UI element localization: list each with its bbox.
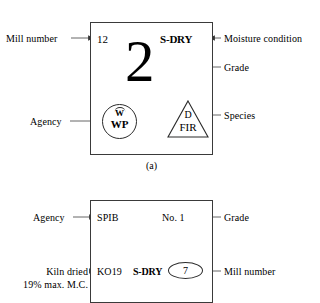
callout-moisture-condition-a: Moisture condition xyxy=(224,33,302,45)
stamp-grade-b: No. 1 xyxy=(162,212,185,224)
callout-agency-b: Agency xyxy=(33,212,65,224)
callout-mill-number-b: Mill number xyxy=(224,266,275,278)
stamp-mill-number-a: 12 xyxy=(97,33,108,45)
callout-mill-number-a: Mill number xyxy=(6,33,57,45)
stamp-grade-numeral-a: 2 xyxy=(125,32,155,91)
agency-mark-circle-a: W WP xyxy=(102,104,137,139)
callout-agency-a: Agency xyxy=(30,116,62,128)
stamp-moisture-condition-a: S-DRY xyxy=(160,33,192,45)
stamp-kiln-code-b: KO19 xyxy=(97,266,122,278)
stamp-agency-b: SPIB xyxy=(97,212,119,224)
agency-mark-top-letter: W xyxy=(103,109,136,118)
callout-kiln-dried-b: Kiln dried 19% max. M.C. xyxy=(4,266,88,291)
species-mark-triangle-a: D FIR xyxy=(166,99,210,139)
stamp-moisture-condition-b: S-DRY xyxy=(133,266,162,278)
callout-kiln-dried-line2: 19% max. M.C. xyxy=(23,279,88,290)
species-mark-top-letter: D xyxy=(166,110,210,120)
stamp-mill-number-oval-b: 7 xyxy=(168,262,203,279)
callout-kiln-dried-line1: Kiln dried xyxy=(46,266,88,277)
species-mark-bottom-letters: FIR xyxy=(166,122,210,133)
panel-caption-a: (a) xyxy=(0,160,303,171)
callout-grade-b: Grade xyxy=(224,212,249,224)
callout-species-a: Species xyxy=(224,110,255,122)
agency-mark-bottom-letters: WP xyxy=(103,119,136,130)
figure-canvas: 12 S-DRY 2 W WP D FIR Mill number Moistu… xyxy=(0,0,320,303)
callout-grade-a: Grade xyxy=(224,62,249,74)
